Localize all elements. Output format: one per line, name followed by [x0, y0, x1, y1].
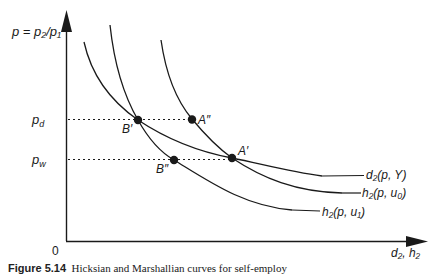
a-prime-label: A′ — [237, 144, 249, 158]
d2-leader — [322, 176, 364, 177]
pd-label: pd — [31, 112, 45, 129]
a-double-prime-label: A″ — [197, 113, 211, 127]
x-axis-label: d₂, h₂ — [391, 246, 421, 260]
b-double-prime-label: B″ — [156, 162, 169, 176]
curve-h2-u0 — [161, 40, 342, 193]
curve-d2-label: d₂(p, Y) — [366, 168, 406, 182]
curve-h2-u0-label: h₂(p, u₀) — [362, 186, 406, 200]
caption-text: Hicksian and Marshallian curves for self… — [72, 262, 287, 274]
y-axis-label: p = p₂/p₁ — [11, 24, 61, 39]
curve-h2-u1-label: h₂(p, u₁) — [322, 205, 365, 219]
point-b-prime — [134, 116, 142, 124]
labels: p = p₂/p₁ d₂, h₂ 0 pd pw B′ A″ A′ B″ d₂(… — [11, 24, 421, 260]
h2-u1-leader — [292, 210, 320, 211]
origin-label: 0 — [52, 244, 59, 258]
y-axis-arrow-icon — [61, 10, 72, 32]
curve-d2 — [84, 42, 322, 176]
point-a-double-prime — [188, 115, 196, 123]
point-b-double-prime — [170, 156, 178, 164]
b-prime-label: B′ — [122, 122, 133, 136]
axes — [61, 10, 428, 247]
curves — [84, 25, 342, 210]
caption-prefix: Figure 5.14 — [8, 262, 66, 274]
points — [134, 115, 236, 164]
figure-caption: Figure 5.14 Hicksian and Marshallian cur… — [8, 262, 287, 274]
pw-label: pw — [31, 152, 46, 169]
point-a-prime — [228, 154, 236, 162]
